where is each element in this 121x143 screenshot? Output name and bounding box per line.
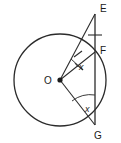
- vertex-label-e: E: [100, 3, 107, 14]
- line-segment-og: [60, 80, 95, 125]
- vertex-label-o: O: [44, 75, 52, 86]
- geometry-figure: E F G O x x: [0, 0, 121, 143]
- vertex-label-f: F: [100, 45, 106, 56]
- center-point-dot: [57, 77, 62, 82]
- vertex-label-g: G: [94, 130, 102, 141]
- angle-label-at-o: x: [78, 62, 84, 72]
- geometry-canvas: E F G O x x: [0, 0, 121, 143]
- line-segment-oe: [60, 14, 95, 80]
- angle-label-at-g: x: [84, 104, 90, 114]
- angle-arc-at-o: [71, 59, 78, 67]
